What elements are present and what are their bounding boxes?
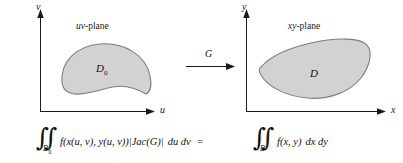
left-domain-subscript: 0 (48, 149, 51, 155)
left-differential: du dv (164, 137, 191, 148)
uv-plane-panel: v u uv-plane D0 (0, 0, 185, 125)
uv-plane-label-italic: uv (76, 21, 85, 31)
right-integrand: f(x, y) (275, 137, 301, 148)
change-of-variables-figure: v u uv-plane D0 G y x xy (0, 0, 403, 163)
v-axis-label: v (36, 2, 40, 12)
u-axis-label: u (160, 105, 165, 115)
y-axis-label: y (242, 2, 246, 12)
xy-plane-panel: y x xy-plane D (215, 0, 403, 125)
region-d0-subscript: 0 (104, 69, 108, 77)
right-double-integral-symbol: ∬ D (253, 129, 275, 155)
region-d-label: D (310, 67, 318, 82)
left-integrand: f(x(u, v), y(u, v))|Jac(G)| (58, 137, 164, 148)
equation-row: ∬ D0 f(x(u, v), y(u, v))|Jac(G)|du dv = … (0, 123, 403, 163)
right-domain-letter: D (260, 144, 265, 153)
left-integral-expression: ∬ D0 f(x(u, v), y(u, v))|Jac(G)|du dv (36, 129, 191, 155)
xy-plane-label-rest: -plane (296, 21, 320, 31)
uv-axes (0, 0, 185, 125)
region-d0-label: D0 (96, 62, 107, 77)
xy-axes (215, 0, 403, 125)
right-integral-domain: D (260, 145, 265, 155)
uv-plane-label-rest: -plane (85, 21, 109, 31)
right-integral-expression: ∬ D f(x, y)dx dy (253, 129, 328, 155)
left-double-integral-symbol: ∬ D0 (36, 129, 58, 155)
region-d-letter: D (310, 67, 318, 79)
right-differential: dx dy (301, 137, 327, 148)
equation-relation: = (197, 136, 203, 147)
region-d0-letter: D (96, 62, 104, 74)
left-integral-domain: D0 (43, 145, 51, 155)
x-axis-label: x (391, 105, 395, 115)
uv-plane-label: uv-plane (76, 21, 109, 31)
xy-plane-label: xy-plane (288, 21, 320, 31)
